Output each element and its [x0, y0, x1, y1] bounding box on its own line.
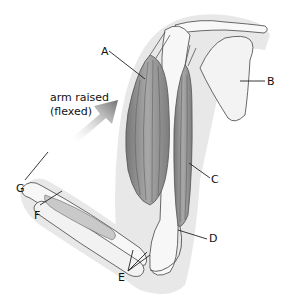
diagram-caption: arm raised (flexed) [50, 91, 109, 119]
label-f: F [34, 210, 40, 221]
label-a: A [101, 46, 109, 57]
caption-line-1: arm raised [50, 91, 109, 105]
label-b: B [267, 76, 275, 87]
label-g: G [16, 183, 25, 194]
label-c: C [211, 174, 219, 185]
arm-flexion-diagram: arm raised (flexed) A B C D E F G [0, 0, 290, 299]
label-d: D [209, 233, 217, 244]
label-e: E [118, 272, 125, 283]
caption-line-2: (flexed) [50, 105, 109, 119]
arm-illustration [0, 0, 290, 299]
